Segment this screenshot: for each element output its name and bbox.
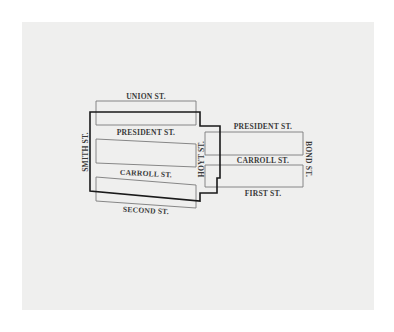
street-label-first: FIRST ST. xyxy=(245,189,282,198)
street-label-president-left: PRESIDENT ST. xyxy=(117,128,175,137)
street-label-carroll-right: CARROLL ST. xyxy=(237,156,289,165)
block-union xyxy=(96,101,196,125)
street-label-smith: SMITH ST. xyxy=(81,132,90,172)
block-president-carroll-left xyxy=(96,139,196,167)
street-label-second: SECOND ST. xyxy=(123,205,170,216)
street-label-carroll-left: CARROLL ST. xyxy=(120,168,173,180)
street-label-president-right: PRESIDENT ST. xyxy=(234,122,292,131)
street-map: UNION ST. PRESIDENT ST. CARROLL ST. SECO… xyxy=(0,0,394,332)
street-label-union: UNION ST. xyxy=(126,92,166,101)
street-label-hoyt: HOYT ST. xyxy=(197,141,206,177)
street-label-bond: BOND ST. xyxy=(304,141,313,177)
